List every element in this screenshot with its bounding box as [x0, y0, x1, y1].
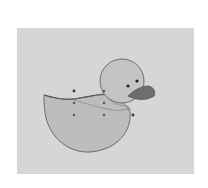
- control-point-handle[interactable]: [73, 102, 75, 104]
- control-point-handle[interactable]: [73, 114, 75, 116]
- duck-illustration: [0, 0, 208, 188]
- control-point-handle[interactable]: [132, 114, 135, 117]
- control-point-handle[interactable]: [103, 114, 105, 116]
- control-point-handle[interactable]: [103, 90, 105, 92]
- duck-body[interactable]: [44, 95, 130, 152]
- eye-icon: [135, 79, 138, 82]
- eye-icon: [126, 84, 129, 87]
- control-point-handle[interactable]: [103, 102, 105, 104]
- control-point-handle[interactable]: [73, 90, 76, 93]
